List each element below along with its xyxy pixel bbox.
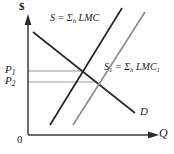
chart-axes: [25, 14, 159, 138]
supply1-label-subscript-lmc1: 1: [157, 66, 160, 73]
y-axis-label: $: [19, 1, 25, 12]
x-axis-label: Q: [159, 127, 168, 139]
supply-shifted-curve-label: S1 = Σh LMC1: [104, 62, 160, 73]
supply-curve-label: S = Σh LMC: [50, 13, 99, 24]
supply-demand-chart: $ Q 0 P1 P2 S = Σh LMC S1 = Σh LMC1 D: [0, 0, 174, 154]
demand-curve-label: D: [140, 106, 148, 117]
supply1-label-part-3: LMC: [134, 61, 157, 72]
price-label-p2-subscript: 2: [12, 79, 16, 88]
price-label-p2-base: P: [5, 74, 12, 86]
x-axis-arrowhead: [148, 132, 159, 139]
origin-label: 0: [17, 134, 23, 145]
supply-label-part-1: S = Σ: [50, 12, 73, 23]
supply-label-part-2: LMC: [76, 12, 99, 23]
y-axis-arrowhead: [25, 14, 32, 25]
price-label-p2: P2: [5, 75, 15, 87]
supply1-label-part-2: = Σ: [112, 61, 130, 72]
price-guide-lines: [28, 71, 97, 82]
